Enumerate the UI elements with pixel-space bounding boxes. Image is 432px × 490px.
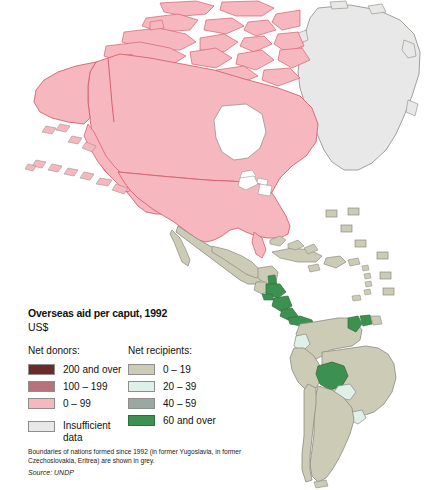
legend-key-recipient-60-and-over: 60 and over xyxy=(128,413,288,427)
legend-donors-heading: Net donors: xyxy=(28,345,128,357)
legend-swatch xyxy=(28,421,55,432)
region-trinidad xyxy=(352,295,361,301)
region-lesser-antilles xyxy=(365,281,372,287)
legend-key-donor-200-and-over: 200 and over xyxy=(28,362,128,376)
legend-key-donor-100-199: 100 – 199 xyxy=(28,379,128,393)
legend-key-recipient-0-19: 0 – 19 xyxy=(128,362,288,376)
legend-swatch xyxy=(28,398,55,409)
legend-swatch xyxy=(28,381,55,392)
legend-swatch xyxy=(128,381,155,392)
legend-key-recipient-40-59: 40 – 59 xyxy=(128,396,288,410)
legend-column-recipients: Net recipients: 0 – 19 20 – 39 40 – 59 6… xyxy=(128,345,288,447)
legend-key-donor-0-99: 0 – 99 xyxy=(28,396,128,410)
legend-key-label: Insufficient data xyxy=(63,420,128,444)
legend-key-recipient-20-39: 20 – 39 xyxy=(128,379,288,393)
legend-key-label: 0 – 99 xyxy=(63,398,91,409)
region-el-salvador xyxy=(262,294,274,300)
region-lesser-antilles xyxy=(362,265,369,271)
legend-key-label: 20 – 39 xyxy=(163,381,196,392)
map-footnote: Boundaries of nations formed since 1992 … xyxy=(28,447,288,477)
legend-recipients-heading: Net recipients: xyxy=(128,345,288,357)
legend-swatch xyxy=(128,398,155,409)
legend-key-label: 60 and over xyxy=(163,415,216,426)
legend-subtitle: US$ xyxy=(28,321,298,334)
legend-swatch xyxy=(28,364,55,375)
legend-swatch xyxy=(128,415,155,426)
region-lesser-antilles xyxy=(364,273,371,279)
footnote-text: Boundaries of nations formed since 1992 … xyxy=(28,447,288,465)
legend-key-insufficient-data: Insufficient data xyxy=(28,420,128,444)
legend-column-donors: Net donors: 200 and over 100 – 199 0 – 9… xyxy=(28,345,128,447)
legend-title: Overseas aid per caput, 1992 xyxy=(28,307,298,320)
map-figure: Overseas aid per caput, 1992 US$ Net don… xyxy=(0,0,432,490)
region-lesser-antilles xyxy=(364,289,371,295)
legend-key-label: 0 – 19 xyxy=(163,364,191,375)
legend-swatch xyxy=(128,364,155,375)
footnote-source: Source: UNDP xyxy=(28,468,288,477)
legend-key-label: 200 and over xyxy=(63,364,121,375)
map-legend: Overseas aid per caput, 1992 US$ Net don… xyxy=(28,307,298,447)
region-french-guiana xyxy=(371,316,382,325)
legend-key-label: 40 – 59 xyxy=(163,398,196,409)
legend-key-label: 100 – 199 xyxy=(63,381,108,392)
